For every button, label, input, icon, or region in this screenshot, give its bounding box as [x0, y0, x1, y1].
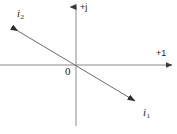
diagram-canvas: [0, 0, 177, 134]
origin-label: 0: [65, 66, 71, 77]
real-axis-label: +1: [156, 49, 166, 58]
vector-label-i2: i2: [17, 8, 24, 19]
vector-label-i1: i1: [143, 107, 150, 118]
vector-i2-subscript: 2: [21, 13, 25, 21]
imaginary-axis-label: +j: [80, 3, 87, 12]
vector-i1-subscript: 1: [147, 112, 151, 120]
phasor-diagram-figure: +j +1 0 i2 i1: [0, 0, 177, 134]
vector-i1-symbol: i: [143, 106, 146, 118]
vector-i2-symbol: i: [17, 7, 20, 19]
